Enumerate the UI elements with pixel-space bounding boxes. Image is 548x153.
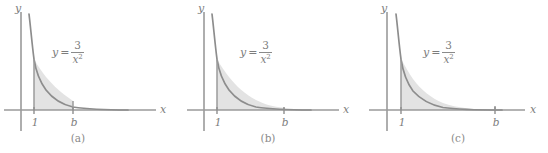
chart-svg-c (365, 0, 548, 153)
y-axis-label-a: y (15, 3, 21, 14)
function-annotation-c: y = 3 x2 (423, 40, 455, 64)
x-tick-label-b-b: b (279, 117, 291, 128)
x-axis-label-c: x (530, 104, 536, 115)
y-axis-label-b: y (198, 3, 204, 14)
equation-exponent-b: 2 (266, 52, 270, 60)
panel-caption-b: (b) (248, 133, 288, 144)
equation-equals-c: = (431, 47, 440, 58)
function-annotation-b: y = 3 x2 (240, 40, 272, 64)
equation-equals-b: = (248, 47, 257, 58)
shaded-area-c (401, 59, 495, 110)
equation-equals-a: = (60, 47, 69, 58)
y-axis-label-c: y (381, 3, 387, 14)
equation-denominator-b: x2 (259, 53, 271, 65)
equation-lhs-a: y (52, 47, 58, 58)
x-tick-label-b-c: b (490, 117, 502, 128)
function-annotation-a: y = 3 x2 (52, 40, 84, 64)
x-tick-label-1-b: 1 (212, 117, 224, 128)
chart-svg-a (0, 0, 183, 153)
shaded-area-b (217, 59, 284, 110)
equation-fraction-b: 3 x2 (259, 40, 271, 64)
figure-root: y x 1 b y = 3 x2 (a) y x 1 (0, 0, 548, 153)
chart-panel-c: y x 1 b y = 3 x2 (c) (365, 0, 548, 153)
x-tick-label-b-a: b (68, 117, 80, 128)
x-axis-label-a: x (160, 104, 166, 115)
panel-caption-c: (c) (438, 133, 478, 144)
chart-panel-a: y x 1 b y = 3 x2 (a) (0, 0, 183, 153)
equation-numerator-c: 3 (444, 40, 453, 52)
equation-lhs-c: y (423, 47, 429, 58)
equation-denominator-a: x2 (71, 53, 83, 65)
x-tick-label-1-c: 1 (396, 117, 408, 128)
chart-svg-b (183, 0, 366, 153)
equation-exponent-a: 2 (78, 52, 82, 60)
equation-denominator-c: x2 (442, 53, 454, 65)
equation-fraction-c: 3 x2 (442, 40, 454, 64)
shaded-area-a (34, 59, 73, 110)
equation-numerator-b: 3 (261, 40, 270, 52)
x-axis-label-b: x (343, 104, 349, 115)
equation-fraction-a: 3 x2 (71, 40, 83, 64)
equation-lhs-b: y (240, 47, 246, 58)
panel-caption-a: (a) (58, 133, 98, 144)
chart-panel-b: y x 1 b y = 3 x2 (b) (183, 0, 366, 153)
equation-exponent-c: 2 (449, 52, 453, 60)
x-tick-label-1-a: 1 (29, 117, 41, 128)
equation-numerator-a: 3 (73, 40, 82, 52)
